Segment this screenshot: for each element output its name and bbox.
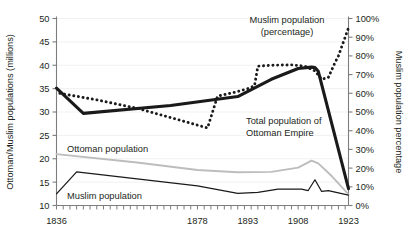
y-tick-label-left: 35 bbox=[39, 84, 49, 94]
y-tick-label-left: 25 bbox=[39, 131, 49, 141]
x-tick-label: 1893 bbox=[237, 216, 258, 226]
x-tick-label: 1836 bbox=[46, 216, 67, 226]
y-tick-label-left: 45 bbox=[39, 37, 49, 47]
y-tick-label-left: 50 bbox=[39, 14, 49, 24]
y-tick-label-right: 0% bbox=[356, 201, 369, 211]
muslim-population-label: Muslim population bbox=[67, 191, 142, 201]
muslim-percentage-label: Muslim population bbox=[250, 15, 325, 25]
y-tick-label-right: 40% bbox=[356, 126, 375, 136]
y-tick-label-left: 15 bbox=[39, 178, 49, 188]
y-axis-title-left: Ottoman/Muslim populations (millions) bbox=[5, 34, 15, 190]
y-tick-label-left: 40 bbox=[39, 61, 49, 71]
y-tick-label-right: 60% bbox=[356, 89, 375, 99]
chart-container: 1015202530354045500%10%20%30%40%50%60%70… bbox=[0, 0, 406, 241]
x-tick-label: 1878 bbox=[187, 216, 208, 226]
y-tick-label-right: 90% bbox=[356, 33, 375, 43]
y-tick-label-right: 10% bbox=[356, 182, 375, 192]
y-tick-label-right: 80% bbox=[356, 51, 375, 61]
y-tick-label-right: 20% bbox=[356, 164, 375, 174]
y-tick-label-right: 100% bbox=[356, 14, 380, 24]
ottoman-population-label: Ottoman population bbox=[67, 144, 148, 154]
muslim-percentage-label-line2: (percentage) bbox=[261, 27, 314, 37]
total-population-label-line2: Ottoman Empire bbox=[246, 128, 314, 138]
y-axis-title-right: Muslim population percentage bbox=[394, 51, 404, 174]
y-tick-label-right: 30% bbox=[356, 145, 375, 155]
y-tick-label-left: 10 bbox=[39, 201, 49, 211]
y-tick-label-left: 20 bbox=[39, 154, 49, 164]
y-tick-label-left: 30 bbox=[39, 107, 49, 117]
ottoman-population-chart: 1015202530354045500%10%20%30%40%50%60%70… bbox=[0, 0, 406, 241]
y-tick-label-right: 70% bbox=[356, 70, 375, 80]
total-population-label: Total population of bbox=[246, 116, 322, 126]
x-tick-label: 1923 bbox=[338, 216, 359, 226]
y-tick-label-right: 50% bbox=[356, 107, 375, 117]
x-tick-label: 1908 bbox=[288, 216, 309, 226]
